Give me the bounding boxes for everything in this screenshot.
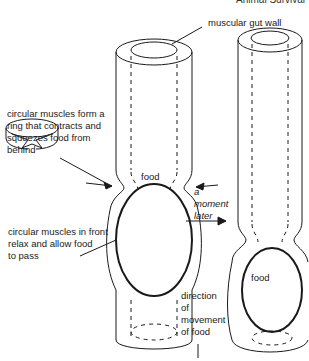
- label-direction-4: of food: [181, 326, 210, 338]
- label-food-left: food: [141, 171, 160, 183]
- label-moment-3: later: [194, 210, 212, 222]
- label-relax-3: to pass: [8, 250, 39, 262]
- label-relax-1: circular muscles in front: [8, 226, 108, 238]
- label-moment-2: moment: [194, 198, 228, 210]
- label-contract-4: behind: [7, 144, 36, 156]
- label-moment-1: a: [194, 186, 199, 198]
- label-muscular-gut-wall: muscular gut wall: [208, 17, 281, 29]
- label-contract-1: circular muscles form a: [7, 108, 105, 120]
- label-direction-3: movement: [181, 314, 225, 326]
- label-contract-2: ring that contracts and: [7, 120, 101, 132]
- label-direction-1: direction: [181, 290, 217, 302]
- label-direction-2: of: [181, 302, 189, 314]
- label-relax-2: relax and allow food: [8, 238, 93, 250]
- label-contract-3: squeezes food from: [7, 132, 90, 144]
- leader-gut-wall: [172, 27, 202, 44]
- right-gut-tube: [228, 28, 309, 352]
- label-food-right: food: [251, 272, 270, 284]
- leader-contract: [60, 158, 104, 182]
